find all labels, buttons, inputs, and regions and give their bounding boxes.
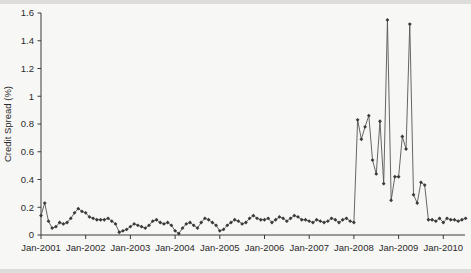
data-point-marker xyxy=(99,218,103,222)
data-point-marker xyxy=(50,226,54,230)
data-point-marker xyxy=(386,18,390,22)
data-point-marker xyxy=(363,125,367,129)
data-point-marker xyxy=(356,118,360,122)
x-tick-group: Jan-2001Jan-2002Jan-2003Jan-2004Jan-2005… xyxy=(21,235,463,253)
data-point-marker xyxy=(412,193,416,197)
data-point-marker xyxy=(322,221,326,225)
data-point-marker xyxy=(259,218,263,222)
series-markers xyxy=(39,18,467,235)
top-border-band xyxy=(0,0,471,4)
x-tick-label: Jan-2009 xyxy=(379,242,419,253)
credit-spread-chart: 00.20.40.60.811.21.41.6 Jan-2001Jan-2002… xyxy=(0,0,471,273)
series-credit-spread xyxy=(39,18,467,235)
data-point-marker xyxy=(121,229,125,233)
data-point-marker xyxy=(404,147,408,151)
y-tick-label: 0.8 xyxy=(21,118,34,129)
x-tick-label: Jan-2006 xyxy=(245,242,285,253)
data-point-marker xyxy=(102,218,106,222)
data-point-marker xyxy=(430,218,434,222)
y-tick-group: 00.20.40.60.811.21.41.6 xyxy=(21,7,41,240)
data-point-marker xyxy=(427,218,431,222)
y-axis: 00.20.40.60.811.21.41.6 xyxy=(21,7,41,240)
data-point-marker xyxy=(140,225,144,229)
chart-canvas: 00.20.40.60.811.21.41.6 Jan-2001Jan-2002… xyxy=(0,0,471,273)
data-point-marker xyxy=(359,137,363,141)
x-tick-label: Jan-2008 xyxy=(334,242,374,253)
y-tick-label: 1.4 xyxy=(21,35,34,46)
data-point-marker xyxy=(318,219,322,223)
data-point-marker xyxy=(382,182,386,186)
data-point-marker xyxy=(453,218,457,222)
x-tick-label: Jan-2010 xyxy=(423,242,463,253)
y-tick-label: 1.2 xyxy=(21,63,34,74)
data-point-marker xyxy=(415,201,419,205)
x-tick-label: Jan-2001 xyxy=(21,242,61,253)
data-point-marker xyxy=(304,218,308,222)
data-point-marker xyxy=(371,158,375,162)
data-point-marker xyxy=(460,218,464,222)
data-point-marker xyxy=(61,222,65,226)
data-point-marker xyxy=(352,221,356,225)
data-point-marker xyxy=(307,219,311,223)
y-tick-label: 0 xyxy=(29,229,34,240)
data-point-marker xyxy=(378,119,382,123)
data-point-marker xyxy=(449,218,453,222)
x-axis: Jan-2001Jan-2002Jan-2003Jan-2004Jan-2005… xyxy=(21,235,465,253)
y-axis-title: Credit Spread (%) xyxy=(2,86,13,162)
data-point-marker xyxy=(456,219,460,223)
data-point-marker xyxy=(464,216,468,220)
data-point-marker xyxy=(400,135,404,139)
x-tick-label: Jan-2005 xyxy=(200,242,240,253)
data-point-marker xyxy=(136,223,140,227)
y-tick-label: 1 xyxy=(29,91,34,102)
data-point-marker xyxy=(374,172,378,176)
x-tick-label: Jan-2007 xyxy=(289,242,329,253)
y-tick-label: 0.2 xyxy=(21,202,34,213)
x-tick-label: Jan-2003 xyxy=(111,242,151,253)
data-point-marker xyxy=(47,219,51,223)
data-point-marker xyxy=(43,201,47,205)
data-point-marker xyxy=(162,222,166,226)
data-point-marker xyxy=(397,175,401,179)
data-point-marker xyxy=(95,218,99,222)
data-point-marker xyxy=(367,114,371,118)
y-tick-label: 1.6 xyxy=(21,7,34,18)
y-tick-label: 0.4 xyxy=(21,174,34,185)
y-tick-label: 0.6 xyxy=(21,146,34,157)
x-tick-label: Jan-2002 xyxy=(66,242,106,253)
data-point-marker xyxy=(263,218,267,222)
data-point-marker xyxy=(408,22,412,26)
data-point-marker xyxy=(389,198,393,202)
data-point-marker xyxy=(91,216,95,220)
data-point-marker xyxy=(117,230,121,234)
x-tick-label: Jan-2004 xyxy=(155,242,195,253)
bottom-border-band xyxy=(0,269,471,273)
data-point-marker xyxy=(393,175,397,179)
series-line xyxy=(41,20,466,234)
data-point-marker xyxy=(39,214,43,218)
